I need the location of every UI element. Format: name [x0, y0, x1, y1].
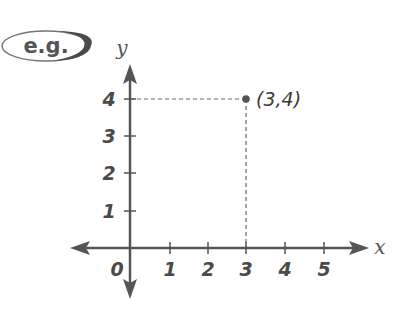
- y-tick-label: 4: [101, 88, 115, 110]
- y-tick-label: 3: [102, 125, 115, 147]
- x-axis-label: x: [374, 235, 385, 259]
- x-tick-label: 1: [163, 258, 176, 280]
- x-axis: 0 1 2 3 4 5 x: [70, 235, 386, 280]
- data-point: [242, 95, 250, 103]
- y-axis-label: y: [115, 36, 128, 60]
- x-tick-label: 4: [277, 258, 291, 280]
- x-tick-label: 2: [201, 258, 214, 280]
- eg-label: e.g.: [23, 34, 68, 58]
- eg-badge: e.g.: [2, 31, 92, 61]
- y-tick-label: 2: [102, 162, 115, 184]
- x-tick-label: 5: [317, 258, 330, 280]
- y-tick-label: 1: [102, 200, 115, 222]
- point-label: (3,4): [256, 88, 301, 110]
- x-tick-label: 0: [110, 258, 123, 280]
- x-tick-label: 3: [239, 258, 252, 280]
- coordinate-plane-figure: e.g. 0 1 2 3 4 5 x: [0, 0, 407, 310]
